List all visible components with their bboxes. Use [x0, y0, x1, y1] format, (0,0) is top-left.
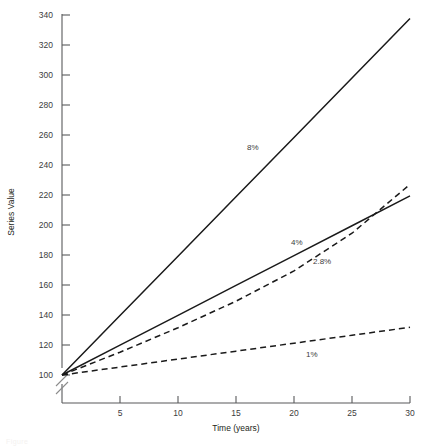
chart-figure: 340 320 300 280 260 240 220 200 180 160 …	[0, 0, 423, 446]
x-tick-label-5: 5	[118, 408, 123, 418]
y-tick-label-280: 280	[39, 100, 53, 110]
y-tick-label-340: 340	[39, 10, 53, 20]
y-tick-label-240: 240	[39, 160, 53, 170]
y-tick-label-260: 260	[39, 130, 53, 140]
series-annotation-2-8pct: 2.8%	[313, 257, 331, 266]
series-line-8pct	[62, 19, 410, 375]
x-tick-label-25: 25	[347, 408, 357, 418]
y-tick-label-160: 160	[39, 280, 53, 290]
y-axis-ticks	[62, 15, 70, 375]
y-tick-label-140: 140	[39, 310, 53, 320]
y-tick-label-200: 200	[39, 220, 53, 230]
y-tick-label-120: 120	[39, 340, 53, 350]
series-line-2-8pct	[62, 184, 410, 375]
x-tick-label-15: 15	[231, 408, 241, 418]
y-tick-label-300: 300	[39, 70, 53, 80]
x-tick-label-10: 10	[173, 408, 183, 418]
y-tick-label-180: 180	[39, 250, 53, 260]
cropped-caption-ghost: Figure	[6, 438, 28, 445]
x-axis-tick-labels: 5 10 15 20 25 30	[118, 408, 415, 418]
series-line-1pct	[62, 327, 410, 375]
x-tick-label-20: 20	[289, 408, 299, 418]
x-tick-label-30: 30	[405, 408, 415, 418]
y-tick-label-220: 220	[39, 190, 53, 200]
x-axis-title: Time (years)	[212, 423, 260, 433]
y-axis-title: Series Value	[6, 188, 16, 236]
series-annotation-1pct: 1%	[306, 350, 318, 359]
x-axis-ticks	[120, 396, 410, 403]
y-tick-label-320: 320	[39, 40, 53, 50]
line-chart-canvas: 340 320 300 280 260 240 220 200 180 160 …	[0, 0, 423, 446]
series-annotation-4pct: 4%	[291, 238, 303, 247]
series-line-4pct	[62, 196, 410, 375]
series-annotation-8pct: 8%	[247, 143, 259, 152]
y-axis-tick-labels: 340 320 300 280 260 240 220 200 180 160 …	[39, 10, 53, 380]
y-tick-label-100: 100	[39, 370, 53, 380]
